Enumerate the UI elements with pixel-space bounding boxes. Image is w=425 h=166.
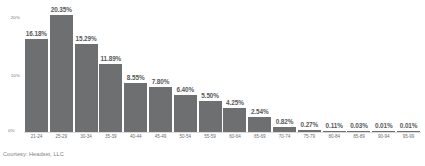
y-tick-label-20: 20% <box>11 15 20 20</box>
x-tick-label: 60-64 <box>223 134 246 139</box>
bar-value-label: 7.80% <box>152 79 170 85</box>
x-tick-label: 80-84 <box>323 134 346 139</box>
bar-value-label: 0.82% <box>276 119 294 125</box>
bar-slot: 15.29% <box>75 6 98 132</box>
bar-series: 16.18%20.35%15.29%11.89%8.55%7.80%6.40%5… <box>24 6 421 132</box>
x-tick-label: 55-59 <box>199 134 222 139</box>
bar-value-label: 5.50% <box>201 93 219 99</box>
x-tick-label: 25-29 <box>50 134 73 139</box>
bar <box>50 15 73 132</box>
bar-slot: 0.01% <box>397 6 420 132</box>
bar <box>25 39 48 132</box>
x-tick-label: 40-44 <box>124 134 147 139</box>
bar <box>124 83 147 132</box>
bar <box>75 44 98 132</box>
bar <box>99 64 122 132</box>
bar-slot: 7.80% <box>149 6 172 132</box>
bar-slot: 4.25% <box>223 6 246 132</box>
bar-slot: 5.50% <box>199 6 222 132</box>
x-tick-label: 70-74 <box>273 134 296 139</box>
bar-value-label: 0.03% <box>350 123 368 129</box>
bar-slot: 0.82% <box>273 6 296 132</box>
x-tick-label: 50-54 <box>174 134 197 139</box>
bar-slot: 0.11% <box>323 6 346 132</box>
bar-slot: 16.18% <box>25 6 48 132</box>
x-tick-label: 21-24 <box>25 134 48 139</box>
x-tick-label: 30-34 <box>75 134 98 139</box>
axis-baseline <box>24 132 421 133</box>
bar <box>223 108 246 132</box>
bar-value-label: 15.29% <box>75 36 96 42</box>
bar-value-label: 20.35% <box>51 7 72 13</box>
bar <box>149 87 172 132</box>
bar <box>248 117 271 132</box>
bar-slot: 20.35% <box>50 6 73 132</box>
x-tick-label: 85-89 <box>347 134 370 139</box>
x-tick-label: 90-94 <box>372 134 395 139</box>
bar <box>174 95 197 132</box>
plot-area: 20%10% 16.18%20.35%15.29%11.89%8.55%7.80… <box>24 6 421 132</box>
bar <box>199 101 222 133</box>
x-tick-label: 75-79 <box>298 134 321 139</box>
bar-chart: 20%10% 16.18%20.35%15.29%11.89%8.55%7.80… <box>0 0 425 166</box>
bar-slot: 6.40% <box>174 6 197 132</box>
bar-value-label: 8.55% <box>127 75 145 81</box>
bar-value-label: 16.18% <box>26 31 47 37</box>
y-tick-label-zero: 0% <box>8 128 15 133</box>
bar-slot: 8.55% <box>124 6 147 132</box>
bar-value-label: 11.89% <box>100 56 121 62</box>
bar-slot: 0.27% <box>298 6 321 132</box>
bar-slot: 0.03% <box>347 6 370 132</box>
bar-value-label: 0.27% <box>301 122 319 128</box>
bar-value-label: 6.40% <box>176 87 194 93</box>
bar-value-label: 4.25% <box>226 100 244 106</box>
source-attribution: Courtesy: Headset, LLC <box>3 151 64 157</box>
x-axis-labels: 21-2425-2930-3435-3940-4445-4950-5455-59… <box>24 134 421 139</box>
bar-value-label: 0.11% <box>326 123 343 129</box>
bar-value-label: 0.01% <box>375 123 393 129</box>
y-tick-label-10: 10% <box>11 72 20 77</box>
x-tick-label: 45-49 <box>149 134 172 139</box>
x-tick-label: 35-39 <box>99 134 122 139</box>
x-tick-label: 95-99 <box>397 134 420 139</box>
bar-slot: 11.89% <box>99 6 122 132</box>
bar-value-label: 0.01% <box>400 123 418 129</box>
bar-value-label: 2.54% <box>251 109 269 115</box>
x-tick-label: 65-69 <box>248 134 271 139</box>
bar-slot: 2.54% <box>248 6 271 132</box>
bar-slot: 0.01% <box>372 6 395 132</box>
